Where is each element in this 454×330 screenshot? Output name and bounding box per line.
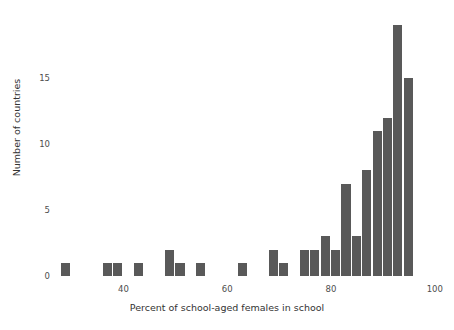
- histogram-bar: [373, 131, 382, 276]
- histogram-bar: [269, 250, 278, 276]
- histogram-bar: [352, 236, 361, 276]
- histogram-bar: [404, 78, 413, 276]
- histogram-bar: [134, 263, 143, 276]
- histogram-bar: [238, 263, 247, 276]
- plot-area: [56, 12, 440, 276]
- histogram-bar: [393, 25, 402, 276]
- x-tick-label: 60: [212, 285, 242, 294]
- histogram-bar: [300, 250, 309, 276]
- histogram-bar: [321, 236, 330, 276]
- histogram-bar: [196, 263, 205, 276]
- y-tick-label: 15: [30, 74, 50, 83]
- histogram-chart: 051015 406080100 Percent of school-aged …: [0, 0, 454, 330]
- x-tick-label: 80: [316, 285, 346, 294]
- histogram-bar: [165, 250, 174, 276]
- histogram-bar: [175, 263, 184, 276]
- histogram-bar: [383, 118, 392, 276]
- histogram-bar: [331, 250, 340, 276]
- y-axis-title: Number of countries: [11, 68, 22, 188]
- y-tick-label: 0: [30, 272, 50, 281]
- y-tick-label: 5: [30, 206, 50, 215]
- histogram-bar: [113, 263, 122, 276]
- y-tick-label: 10: [30, 140, 50, 149]
- histogram-bar: [310, 250, 319, 276]
- histogram-bar: [61, 263, 70, 276]
- x-tick-label: 100: [420, 285, 450, 294]
- x-axis-title: Percent of school-aged females in school: [0, 302, 454, 313]
- histogram-bar: [279, 263, 288, 276]
- histogram-bar: [341, 184, 350, 276]
- x-tick-label: 40: [108, 285, 138, 294]
- histogram-bar: [362, 170, 371, 276]
- histogram-bar: [103, 263, 112, 276]
